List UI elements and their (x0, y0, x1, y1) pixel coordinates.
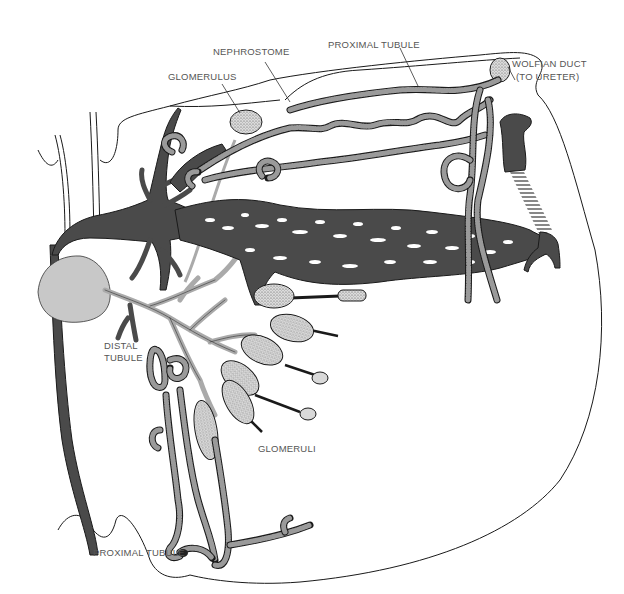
label-proximal-tubule-bottom: PROXIMAL TUBULE (93, 547, 185, 558)
top-flap (285, 58, 520, 100)
cardinal-vein-blob (38, 256, 110, 322)
upper-glomerulus-texture (231, 111, 261, 133)
label-distal-tubule-1: DISTAL (104, 340, 138, 351)
kidney-diagram: NEPHROSTOME PROXIMAL TUBULE WOLFIAN DUCT… (0, 0, 624, 594)
kidney-outline (170, 53, 602, 584)
label-distal-tubule-2: TUBULE (104, 352, 143, 363)
glomeruli-cluster (190, 284, 366, 461)
left-curve-top (38, 150, 58, 165)
label-nephrostome: NEPHROSTOME (213, 46, 289, 57)
label-wolfian-duct-1: WOLFIAN DUCT (512, 58, 587, 69)
label-wolfian-duct-2: (TO URETER) (516, 71, 579, 82)
wolfian-dark-blob (500, 114, 531, 172)
leader-lines (222, 48, 515, 113)
upper-left-flap (170, 100, 280, 107)
label-proximal-tubule-top: PROXIMAL TUBULE (328, 39, 420, 50)
label-glomeruli: GLOMERULI (258, 443, 316, 454)
label-glomerulus: GLOMERULUS (168, 71, 237, 82)
